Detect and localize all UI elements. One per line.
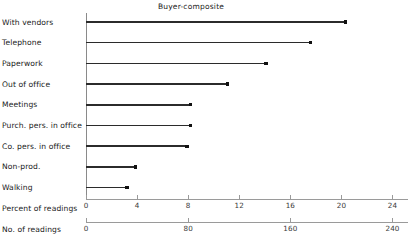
axis-line xyxy=(86,222,408,223)
axis-tick-label: 12 xyxy=(226,201,252,210)
value-axis-label: No. of readings xyxy=(2,225,61,234)
axis-tick-label: 80 xyxy=(175,224,201,233)
axis-tick-label: 20 xyxy=(328,201,354,210)
bar xyxy=(86,83,228,85)
category-label: Purch. pers. in office xyxy=(2,121,82,130)
category-label: Meetings xyxy=(2,100,37,109)
axis-tick xyxy=(341,195,342,199)
category-label: Out of office xyxy=(2,80,50,89)
axis-tick xyxy=(86,218,87,222)
category-label: Walking xyxy=(2,183,33,192)
bar-endpoint-marker xyxy=(185,145,188,148)
category-label: Non-prod. xyxy=(2,162,40,171)
axis-tick xyxy=(290,218,291,222)
axis-tick-label: 0 xyxy=(73,224,99,233)
axis-tick-label: 16 xyxy=(277,201,303,210)
bar xyxy=(86,42,311,44)
bar xyxy=(86,104,191,106)
bar xyxy=(86,145,187,147)
axis-tick-label: 4 xyxy=(124,201,150,210)
axis-tick xyxy=(188,218,189,222)
axis-tick xyxy=(290,195,291,199)
axis-tick-label: 160 xyxy=(277,224,303,233)
bar-endpoint-marker xyxy=(309,41,312,44)
axis-line xyxy=(86,199,408,200)
bar xyxy=(86,21,345,23)
category-label: Paperwork xyxy=(2,59,43,68)
axis-tick-label: 0 xyxy=(73,201,99,210)
axis-tick xyxy=(239,195,240,199)
category-axis-spine xyxy=(86,13,87,199)
bar-endpoint-marker xyxy=(189,103,192,106)
axis-tick xyxy=(188,195,189,199)
axis-tick-label: 24 xyxy=(379,201,405,210)
bar xyxy=(86,166,136,168)
axis-tick xyxy=(86,195,87,199)
bar xyxy=(86,125,191,127)
bar-endpoint-marker xyxy=(189,124,192,127)
category-label: Telephone xyxy=(2,38,41,47)
axis-tick xyxy=(137,195,138,199)
axis-tick-label: 8 xyxy=(175,201,201,210)
category-label: Co. pers. in office xyxy=(2,142,70,151)
axis-tick-label: 240 xyxy=(379,224,405,233)
bar-endpoint-marker xyxy=(264,62,267,65)
bar-endpoint-marker xyxy=(134,165,137,168)
chart-title: Buyer-composite xyxy=(0,2,401,11)
chart-container: Buyer-composite With vendorsTelephonePap… xyxy=(0,0,420,236)
bar-endpoint-marker xyxy=(226,82,229,85)
bar xyxy=(86,187,127,189)
axis-tick xyxy=(392,195,393,199)
category-label: With vendors xyxy=(2,18,53,27)
bar-endpoint-marker xyxy=(125,186,128,189)
axis-tick xyxy=(392,218,393,222)
bar xyxy=(86,63,266,65)
bar-endpoint-marker xyxy=(344,20,347,23)
value-axis-label: Percent of readings xyxy=(2,204,77,213)
